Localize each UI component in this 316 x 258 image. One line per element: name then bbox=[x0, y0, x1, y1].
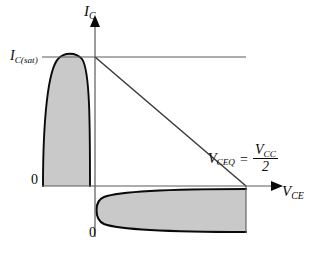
vceq-lhs: VCEQ bbox=[208, 152, 235, 166]
y-axis-label-subscript: C bbox=[89, 10, 96, 21]
fraction-numerator: VCC bbox=[253, 143, 278, 158]
load-line-figure: IC VCE IC(sat) 0 0 VCEQ = VCC 2 bbox=[0, 0, 316, 258]
equals-sign: = bbox=[239, 153, 249, 167]
x-axis-label: VCE bbox=[282, 184, 304, 199]
ic-sat-label-subscript: C(sat) bbox=[15, 55, 38, 65]
vceq-lhs-text: V bbox=[208, 151, 217, 166]
fraction-numerator-text: V bbox=[255, 142, 264, 157]
ic-sat-label-text: I bbox=[10, 48, 15, 63]
origin-label-left: 0 bbox=[31, 173, 38, 187]
x-axis-label-text: V bbox=[282, 183, 291, 199]
x-axis-label-subscript: CE bbox=[291, 190, 304, 201]
ic-sat-label: IC(sat) bbox=[10, 49, 38, 63]
fraction-denominator: 2 bbox=[260, 159, 271, 174]
collector-current-waveform-fill bbox=[43, 54, 90, 186]
collector-voltage-waveform-fill bbox=[97, 189, 247, 232]
vcc-over-two-fraction: VCC 2 bbox=[253, 143, 278, 174]
load-line-plot bbox=[0, 0, 316, 258]
vceq-annotation: VCEQ = VCC 2 bbox=[208, 143, 278, 174]
vceq-lhs-subscript: CEQ bbox=[217, 157, 235, 167]
fraction-numerator-subscript: CC bbox=[264, 149, 276, 159]
y-axis-label: IC bbox=[84, 4, 96, 19]
origin-label-bottom: 0 bbox=[89, 226, 96, 240]
